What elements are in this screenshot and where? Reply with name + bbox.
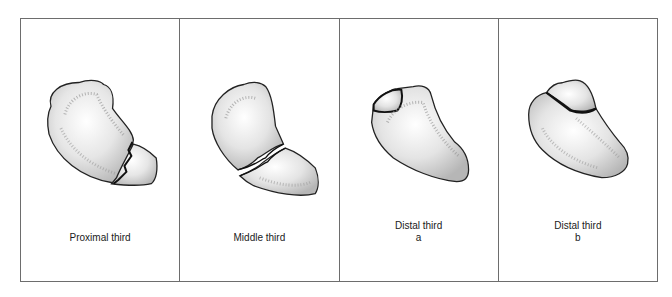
caption-text: Distal third [340, 220, 498, 232]
panel-caption: Distal third a [340, 220, 498, 244]
caption-sub-label: a [340, 232, 498, 244]
caption-text: Middle third [180, 232, 338, 244]
caption-sub-label: b [499, 232, 657, 244]
panel-distal-third-b: Distal third b [499, 19, 657, 281]
panel-distal-third-a: Distal third a [340, 19, 499, 281]
panel-caption: Middle third [180, 232, 338, 244]
caption-text: Proximal third [21, 232, 179, 244]
caption-text: Distal third [499, 220, 657, 232]
fracture-figure: Proximal third Middle third [20, 18, 658, 282]
panel-proximal-third: Proximal third [21, 19, 180, 281]
panel-caption: Distal third b [499, 220, 657, 244]
panel-caption: Proximal third [21, 232, 179, 244]
panel-middle-third: Middle third [180, 19, 339, 281]
